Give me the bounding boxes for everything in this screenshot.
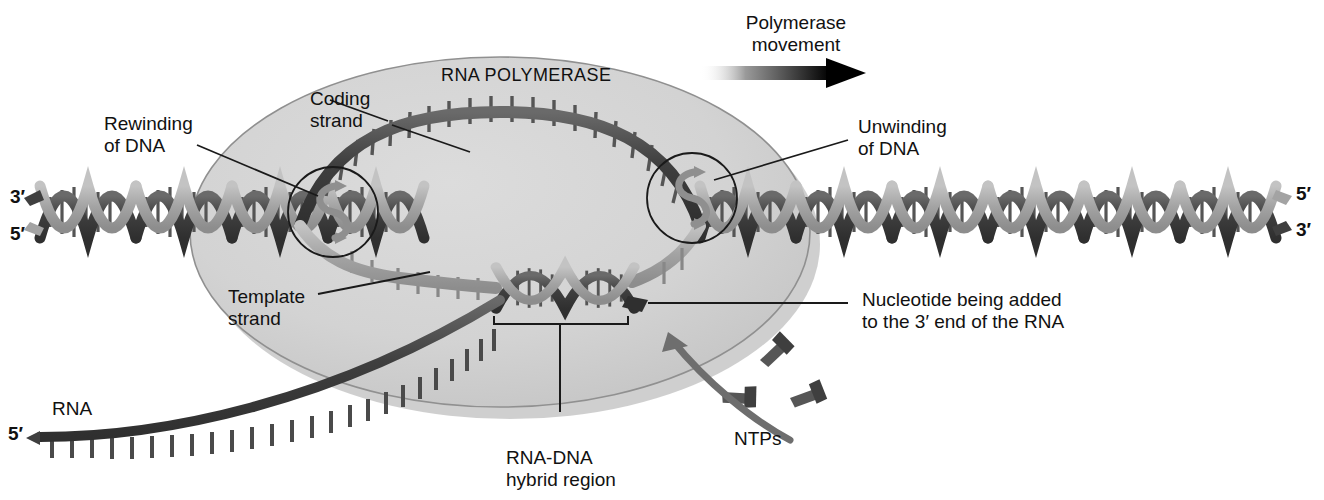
template-strand-label: Template strand bbox=[228, 286, 305, 329]
rna-label: RNA bbox=[52, 398, 92, 420]
dna-duplex-right bbox=[700, 186, 1292, 238]
rewinding-of-dna-label: Rewinding of DNA bbox=[104, 113, 193, 156]
rna-five-prime-label: 5′ bbox=[8, 423, 23, 445]
rna-polymerase-label: RNA POLYMERASE bbox=[441, 65, 611, 86]
left-top-prime-label: 3′ bbox=[10, 186, 25, 208]
figure-canvas: Polymerase movement RNA POLYMERASE Codin… bbox=[0, 0, 1324, 500]
polymerase-movement-label: Polymerase movement bbox=[712, 12, 880, 55]
transcription-diagram bbox=[0, 0, 1324, 500]
right-bottom-prime-label: 3′ bbox=[1296, 219, 1311, 241]
unwinding-of-dna-label: Unwinding of DNA bbox=[858, 116, 947, 159]
polymerase-movement-arrow bbox=[700, 58, 866, 88]
left-bottom-prime-label: 5′ bbox=[10, 223, 25, 245]
ntps-label: NTPs bbox=[734, 428, 782, 450]
right-top-prime-label: 5′ bbox=[1296, 183, 1311, 205]
nucleotide-added-label: Nucleotide being added to the 3′ end of … bbox=[862, 289, 1064, 332]
hybrid-region-label: RNA-DNA hybrid region bbox=[506, 447, 616, 490]
coding-strand-label: Coding strand bbox=[310, 88, 370, 131]
